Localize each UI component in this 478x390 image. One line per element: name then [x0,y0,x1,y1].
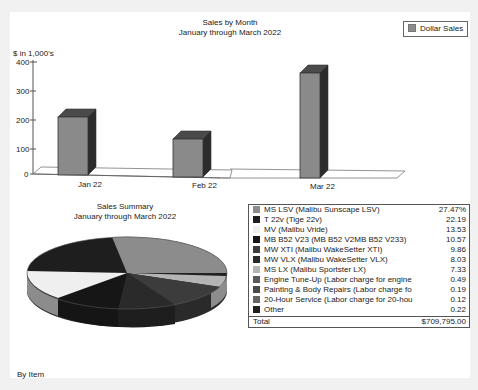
legend-row: MW VLX (Malibu WakeSetter VLX)8.03 [249,255,469,265]
legend-swatch [253,246,260,253]
legend-row: MS LSV (Malibu Sunscape LSV)27.47% [249,205,469,215]
legend-row: 20-Hour Service (Labor charge for 20-hou… [249,295,469,305]
legend-swatch [253,286,260,293]
footer-label: By Item [17,370,44,379]
legend-swatch [253,276,260,283]
legend-row: MS LX (Malibu Sportster LX)7.33 [249,265,469,275]
total-label: Total [253,317,270,327]
legend-swatch [253,206,260,213]
total-value: $709,795.00 [422,317,467,327]
report-page: Sales by Month January through March 202… [10,12,470,378]
legend-row: MV (Malibu Vride)13.53 [249,225,469,235]
pie-chart-legend: MS LSV (Malibu Sunscape LSV)27.47% T 22v… [248,204,470,328]
legend-swatch [253,256,260,263]
legend-row: Other0.22 [249,305,469,315]
legend-row: T 22v (Tige 22v)22.19 [249,215,469,225]
legend-total-row: Total$709,795.00 [249,316,469,327]
legend-swatch [253,236,260,243]
legend-row: Painting & Body Repairs (Labor charge fo… [249,285,469,295]
legend-swatch [253,216,260,223]
legend-swatch [253,296,260,303]
legend-swatch [253,226,260,233]
legend-swatch [253,266,260,273]
legend-row: MW XTI (Malibu WakeSetter XTI)9.86 [249,245,469,255]
legend-swatch [253,306,260,313]
legend-row: MB B52 V23 (MB B52 V2MB B52 V233)10.57 [249,235,469,245]
legend-row: Engine Tune-Up (Labor charge for engine0… [249,275,469,285]
